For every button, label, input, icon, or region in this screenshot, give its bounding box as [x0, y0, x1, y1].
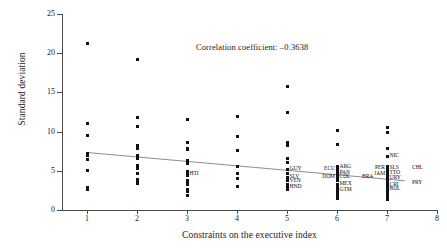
point-label: CHL — [412, 165, 423, 171]
point-label: URY — [390, 175, 401, 181]
data-point — [286, 144, 289, 147]
data-point — [286, 85, 289, 88]
y-tick-label: 0 — [29, 206, 55, 214]
point-label: NIC — [390, 153, 399, 159]
data-point — [386, 155, 389, 158]
data-point — [236, 185, 239, 188]
data-point — [136, 147, 139, 150]
data-point — [86, 188, 89, 191]
x-axis-line — [62, 210, 437, 211]
x-tick-label: 7 — [377, 214, 397, 223]
x-tick-label: 3 — [177, 214, 197, 223]
data-point — [236, 149, 239, 152]
data-point — [136, 125, 139, 128]
x-tick-label: 8 — [427, 214, 447, 223]
data-point — [86, 42, 89, 45]
x-axis-title: Constraints on the executive index — [62, 230, 437, 240]
data-point — [186, 183, 189, 186]
y-tick-mark — [57, 210, 62, 211]
x-tick-label: 6 — [327, 214, 347, 223]
data-point — [286, 111, 289, 114]
data-point — [236, 135, 239, 138]
data-point — [236, 115, 239, 118]
data-point — [86, 122, 89, 125]
data-point — [186, 118, 189, 121]
y-tick-label: 15 — [29, 88, 55, 96]
data-point — [386, 147, 389, 150]
correlation-coefficient-annotation: Correlation coefficient: –0.3638 — [196, 42, 308, 52]
data-point — [336, 143, 339, 146]
point-label: HND — [290, 184, 302, 190]
x-tick-label: 5 — [277, 214, 297, 223]
y-tick-label: 25 — [29, 10, 55, 18]
data-point — [86, 158, 89, 161]
scatter-plot: 0510152025 12345678 Standard deviation C… — [0, 0, 447, 252]
data-point — [136, 157, 139, 160]
y-tick-mark — [57, 14, 62, 15]
data-point — [136, 182, 139, 185]
data-point — [136, 116, 139, 119]
point-label: BOL — [390, 186, 401, 192]
data-point — [286, 188, 289, 191]
data-point — [136, 58, 139, 61]
x-tick-label: 4 — [227, 214, 247, 223]
data-point — [186, 148, 189, 151]
y-axis-line — [62, 14, 63, 210]
data-point — [386, 131, 389, 134]
y-tick-label: 10 — [29, 128, 55, 136]
data-point — [86, 134, 89, 137]
y-tick-mark — [57, 92, 62, 93]
y-tick-mark — [57, 132, 62, 133]
data-point — [386, 126, 389, 129]
data-point — [336, 129, 339, 132]
data-point — [286, 157, 289, 160]
y-tick-mark — [57, 53, 62, 54]
x-tick-label: 1 — [77, 214, 97, 223]
data-point — [186, 194, 189, 197]
point-label: GTM — [340, 187, 352, 193]
data-point — [186, 141, 189, 144]
y-tick-label: 20 — [29, 49, 55, 57]
data-point — [386, 198, 389, 201]
data-point — [336, 197, 339, 200]
point-label: PRY — [412, 180, 422, 186]
data-point — [286, 161, 289, 164]
point-label: JAM — [0, 171, 385, 177]
x-tick-label: 2 — [127, 214, 147, 223]
y-axis-title: Standard deviation — [17, 19, 27, 159]
